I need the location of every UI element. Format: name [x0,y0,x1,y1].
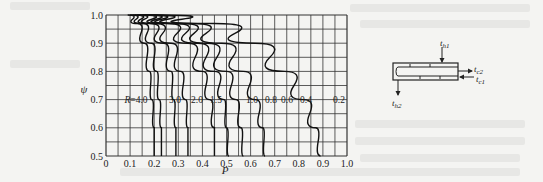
y-tick-label: 1.0 [91,10,104,21]
x-tick-label: 0.1 [124,158,137,169]
x-axis-label: P [221,164,229,176]
y-tick-label: 0.8 [91,66,104,77]
y-tick-label: 0.7 [91,94,104,105]
arrow-head-icon [440,58,445,63]
curve-label: 0.4 [300,95,312,105]
x-tick-label: 0.2 [148,158,161,169]
x-tick-label: 0.8 [293,158,306,169]
arrow-head-icon [459,75,464,80]
curve-label: 0.2 [333,95,345,105]
x-tick-label: 0.9 [317,158,330,169]
curve-label: 1.0 [246,95,258,105]
shell-outline [393,63,458,80]
y-tick-label: 0.5 [91,151,104,162]
label-th2: th2 [392,98,402,110]
x-tick-label: 0.6 [244,158,257,169]
x-tick-label: 0.7 [268,158,281,169]
curve-label: 0.8 [265,95,277,105]
curve-label: 1.5 [210,95,222,105]
label-th1: th1 [440,38,450,50]
x-tick-label: 0.4 [196,158,209,169]
curve-label: 2.0 [191,95,203,105]
y-axis-label: ψ [81,83,88,95]
u-tube-path [396,67,458,76]
x-tick-label: 0 [104,158,109,169]
x-tick-label: 1.0 [341,158,354,169]
curve-label: R=4.0 [123,95,147,105]
y-tick-label: 0.9 [91,38,104,49]
x-tick-label: 0.3 [172,158,185,169]
y-axis-ticks: 0.50.60.70.80.91.0 [91,10,104,162]
x-axis-ticks: 00.10.20.30.40.50.60.70.80.91.0 [104,158,354,169]
chart-figure: 00.10.20.30.40.50.60.70.80.91.0 0.50.60.… [0,0,543,182]
y-tick-label: 0.6 [91,122,104,133]
curve-label: 0.6 [281,95,293,105]
arrow-head-icon [468,69,473,74]
heat-exchanger-inset: th1 th2 tc2 tc1 [392,38,485,110]
curve-label: 3.0 [169,95,181,105]
arrow-head-icon [396,91,401,96]
chart-grid [106,15,347,156]
